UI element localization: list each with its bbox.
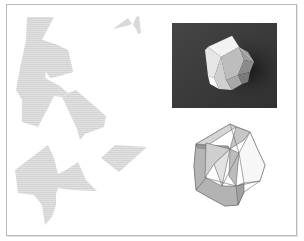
net-piece: [113, 18, 132, 29]
wireframe-polyhedron: [194, 124, 265, 206]
photo-folded-polyhedron: [172, 23, 277, 108]
net-piece: [101, 145, 147, 172]
net-piece: [133, 16, 141, 34]
figure-canvas: [0, 0, 304, 241]
net-slivers: [113, 16, 141, 34]
net-piece: [62, 90, 106, 140]
net-cluster-lower: [15, 145, 97, 225]
net-cluster-upper: [16, 17, 106, 140]
net-piece: [15, 145, 97, 225]
